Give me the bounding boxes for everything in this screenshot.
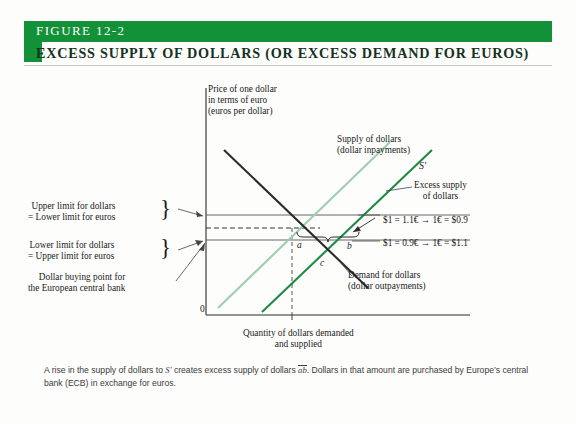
- caption-part1: A rise in the supply of dollars to: [44, 365, 165, 375]
- leader-lower-limit: [178, 241, 203, 250]
- demand-curve-label: Demand for dollars (dollar outpayments): [348, 270, 426, 292]
- caption-part2: creates excess supply of dollars: [172, 365, 299, 375]
- x-axis-label-line1: Quantity of dollars demanded: [243, 328, 354, 338]
- demand-curve: [224, 150, 368, 288]
- leader-buying-arrowhead: [199, 243, 205, 251]
- origin-label: 0: [200, 304, 205, 314]
- point-label-b: b: [347, 241, 352, 251]
- figure-caption: A rise in the supply of dollars to S′ cr…: [44, 364, 534, 389]
- supply-shifted-label: S′: [419, 160, 426, 171]
- excess-supply-label-line1: Excess supply: [414, 180, 467, 190]
- excess-supply-label: Excess supply of dollars: [414, 180, 467, 202]
- leader-excess-supply: [386, 187, 412, 191]
- demand-curve-label-line1: Demand for dollars: [348, 270, 420, 280]
- lower-rate-equation: $1 = 0.9€ → 1€ = $1.1: [383, 238, 468, 248]
- leader-upper-limit: [178, 209, 203, 216]
- figure-number: FIGURE 12-2: [36, 23, 125, 39]
- x-axis-label-line2: and supplied: [275, 339, 322, 349]
- supply-curve-label-line2: (dollar inpayments): [337, 145, 410, 155]
- leader-upper-arrowhead: [196, 211, 203, 217]
- lower-limit-note-line1: Lower limit for dollars: [29, 240, 114, 250]
- dollar-buying-point-line2: the European central bank: [28, 283, 125, 293]
- y-axis-label-line1: Price of one dollar: [208, 84, 277, 94]
- upper-limit-brace: }: [160, 197, 171, 220]
- caption-ab: ab: [298, 365, 307, 375]
- brace-arrowhead: [353, 226, 361, 232]
- leader-sprime: [414, 171, 424, 180]
- supply-curve-label: Supply of dollars (dollar inpayments): [337, 134, 410, 156]
- upper-rate-equation: $1 = 1.1€ → 1€ = $0.9: [383, 215, 468, 225]
- demand-curve-label-line2: (dollar outpayments): [348, 281, 426, 291]
- figure-container: FIGURE 12-2 EXCESS SUPPLY OF DOLLARS (OR…: [0, 0, 576, 424]
- excess-supply-label-line2: of dollars: [423, 191, 458, 201]
- leader-buying-point: [176, 243, 205, 281]
- lower-limit-brace: }: [160, 236, 171, 259]
- point-label-c: c: [320, 258, 324, 268]
- y-axis-label: Price of one dollar in terms of euro (eu…: [208, 84, 277, 118]
- dollar-buying-point-note: Dollar buying point for the European cen…: [28, 272, 125, 295]
- supply-curve-label-line1: Supply of dollars: [337, 134, 401, 144]
- lower-limit-note: Lower limit for dollars = Upper limit fo…: [28, 240, 114, 263]
- lower-limit-note-line2: = Upper limit for euros: [28, 251, 114, 261]
- figure-title: EXCESS SUPPLY OF DOLLARS (OR EXCESS DEMA…: [36, 45, 529, 62]
- x-axis-label: Quantity of dollars demanded and supplie…: [243, 328, 354, 351]
- upper-limit-note-line1: Upper limit for dollars: [31, 201, 115, 211]
- upper-limit-note-line2: = Lower limit for euros: [28, 212, 115, 222]
- dollar-buying-point-line1: Dollar buying point for: [39, 272, 126, 282]
- title-divider: [24, 65, 552, 66]
- y-axis-label-line2: in terms of euro: [208, 95, 267, 105]
- upper-limit-note: Upper limit for dollars = Lower limit fo…: [28, 201, 115, 224]
- leader-lower-arrowhead: [195, 240, 203, 246]
- brace-pointer: [353, 218, 375, 232]
- point-label-a: a: [297, 240, 302, 250]
- y-axis-label-line3: (euros per dollar): [208, 106, 273, 116]
